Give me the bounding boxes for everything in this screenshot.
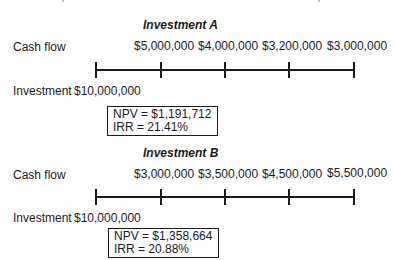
timeline-tick — [288, 189, 290, 205]
cash-flow-year-3: $3,200,000 — [262, 39, 322, 53]
result-box: NPV = $1,358,664 IRR = 20.88% — [108, 228, 219, 258]
timeline-tick — [160, 189, 162, 205]
cash-flow-label: Cash flow — [13, 168, 66, 182]
initial-investment: $10,000,000 — [74, 84, 141, 98]
cropped-header-fragment — [0, 0, 394, 4]
timeline-tick — [224, 189, 226, 205]
investment-b-title: Investment B — [143, 146, 218, 160]
investment-label: Investment — [13, 84, 72, 98]
cash-flow-label: Cash flow — [13, 40, 66, 54]
cash-flow-year-1: $3,000,000 — [134, 167, 194, 181]
timeline-tick — [95, 189, 97, 205]
timeline-tick — [353, 189, 355, 205]
cash-flow-year-2: $4,000,000 — [198, 39, 258, 53]
irr-value: IRR = 21.41% — [113, 121, 211, 134]
timeline-tick — [288, 62, 290, 78]
timeline-tick — [95, 62, 97, 78]
cash-flow-year-2: $3,500,000 — [198, 167, 258, 181]
result-box: NPV = $1,191,712 IRR = 21.41% — [107, 106, 218, 136]
cash-flow-year-4: $5,500,000 — [327, 166, 387, 180]
initial-investment: $10,000,000 — [74, 211, 141, 225]
cash-flow-year-3: $4,500,000 — [262, 167, 322, 181]
investment-label: Investment — [13, 211, 72, 225]
timeline-tick — [353, 62, 355, 78]
timeline-tick — [224, 62, 226, 78]
cash-flow-year-4: $3,000,000 — [327, 39, 387, 53]
irr-value: IRR = 20.88% — [114, 243, 212, 256]
cash-flow-year-1: $5,000,000 — [134, 39, 194, 53]
investment-a-title: Investment A — [143, 18, 218, 32]
timeline-tick — [160, 62, 162, 78]
